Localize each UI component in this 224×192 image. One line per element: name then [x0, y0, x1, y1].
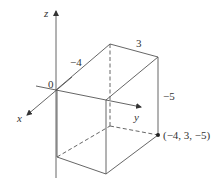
edge-top-left	[56, 44, 110, 90]
x-axis-label: x	[16, 112, 22, 124]
y-length-label: 3	[136, 37, 142, 49]
z-axis-label: z	[43, 7, 49, 19]
point-label: (−4, 3, −5)	[163, 129, 211, 142]
x-length-label: −4	[70, 56, 82, 68]
point-marker	[156, 133, 160, 137]
z-length-label: −5	[163, 90, 175, 102]
y-axis-label: y	[133, 111, 139, 123]
edge-top-right	[106, 57, 158, 100]
origin-label: 0	[48, 78, 54, 90]
box-diagram: z x y 0 −4 3 −5 (−4, 3, −5)	[0, 0, 224, 192]
edge-bottom-hidden-left	[57, 126, 110, 157]
edge-bottom-hidden-back	[110, 126, 158, 135]
edge-bottom-front-right	[106, 135, 158, 174]
edge-top-back	[110, 44, 158, 57]
edge-bottom-front-left	[57, 157, 106, 174]
